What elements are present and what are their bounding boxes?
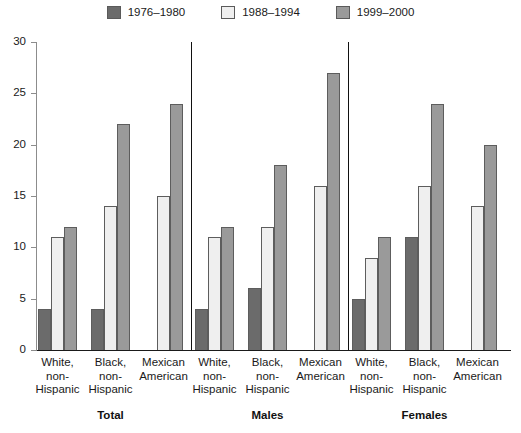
- bar-chart: 1976–1980 1988–1994 1999–2000 0510152025…: [0, 0, 521, 433]
- y-tick-label-25: 25: [2, 87, 26, 99]
- group-label-females: Females: [375, 408, 475, 422]
- y-tick-20: [31, 145, 37, 146]
- bar: [418, 186, 431, 350]
- legend-swatch-1988-1994: [221, 6, 235, 19]
- group-separator-2: [348, 42, 349, 350]
- bar: [117, 124, 130, 350]
- bar: [51, 237, 64, 350]
- bar: [261, 227, 274, 350]
- y-tick-label-15: 15: [2, 190, 26, 202]
- group-separator-1: [191, 42, 192, 350]
- bar: [221, 227, 234, 350]
- legend-swatch-1976-1980: [107, 6, 121, 19]
- bar: [365, 258, 378, 350]
- bar: [314, 186, 327, 350]
- bar: [327, 73, 340, 350]
- legend-item-2: 1999–2000: [336, 6, 415, 19]
- bar: [195, 309, 208, 350]
- bar: [431, 104, 444, 350]
- bar: [91, 309, 104, 350]
- y-tick-10: [31, 247, 37, 248]
- bar: [352, 299, 365, 350]
- category-label-line: Mexican: [438, 356, 518, 370]
- bar: [208, 237, 221, 350]
- legend-swatch-1999-2000: [336, 6, 350, 19]
- chart-legend: 1976–1980 1988–1994 1999–2000: [0, 6, 521, 19]
- legend-item-0: 1976–1980: [107, 6, 186, 19]
- group-label-total: Total: [61, 408, 161, 422]
- y-tick-15: [31, 196, 37, 197]
- category-label: MexicanAmerican: [438, 356, 518, 383]
- y-tick-0: [31, 350, 37, 351]
- legend-label-1988-1994: 1988–1994: [242, 6, 300, 19]
- y-tick-label-30: 30: [2, 36, 26, 48]
- bar: [471, 206, 484, 350]
- bar: [248, 288, 261, 350]
- y-tick-label-0: 0: [2, 344, 26, 356]
- category-labels: White,non-HispanicBlack,non-HispanicMexi…: [36, 356, 510, 402]
- bar: [405, 237, 418, 350]
- bar: [64, 227, 77, 350]
- bar: [484, 145, 497, 350]
- y-tick-5: [31, 299, 37, 300]
- bar: [170, 104, 183, 350]
- y-tick-25: [31, 93, 37, 94]
- category-label-line: Hispanic: [385, 383, 465, 397]
- legend-label-1976-1980: 1976–1980: [128, 6, 186, 19]
- y-tick-label-20: 20: [2, 139, 26, 151]
- bar: [157, 196, 170, 350]
- category-label-line: American: [438, 370, 518, 384]
- group-labels: TotalMalesFemales: [36, 408, 510, 426]
- bar: [274, 165, 287, 350]
- y-tick-label-10: 10: [2, 241, 26, 253]
- category-label-line: Hispanic: [228, 383, 308, 397]
- legend-label-1999-2000: 1999–2000: [357, 6, 415, 19]
- bar: [104, 206, 117, 350]
- bar: [38, 309, 51, 350]
- y-tick-30: [31, 42, 37, 43]
- x-axis-line: [35, 350, 511, 351]
- bar: [378, 237, 391, 350]
- plot-area: [36, 42, 510, 350]
- group-label-males: Males: [218, 408, 318, 422]
- category-label-line: Hispanic: [71, 383, 151, 397]
- legend-item-1: 1988–1994: [221, 6, 300, 19]
- y-tick-label-5: 5: [2, 293, 26, 305]
